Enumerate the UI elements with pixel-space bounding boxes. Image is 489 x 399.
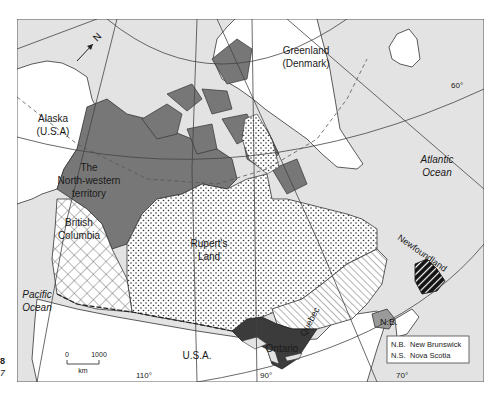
greenland-label-1: Greenland: [283, 45, 330, 56]
ruperts-land-label-1: Rupert's: [191, 238, 228, 249]
lon-110-label: 110°: [136, 371, 152, 380]
margin-fragment-2: 7: [0, 368, 5, 378]
bc-label-1: British: [65, 217, 93, 228]
ruperts-land-label-2: Land: [198, 251, 220, 262]
greenland-label-2: (Denmark): [282, 58, 329, 69]
pacific-label-2: Ocean: [22, 302, 52, 313]
lon-70-label: 70°: [396, 371, 408, 380]
pacific-label-1: Pacific: [22, 289, 51, 300]
legend-name-ns: Nova Scotia: [410, 351, 451, 360]
scale-end: 1000: [91, 351, 107, 358]
nwt-label-1: The: [80, 162, 98, 173]
legend-box: N.B. New Brunswick N.S. Nova Scotia: [387, 336, 469, 363]
alaska-label-1: Alaska: [38, 113, 68, 124]
legend-abbr-ns: N.S.: [391, 351, 406, 360]
margin-fragment-1: 8: [0, 356, 5, 366]
alaska-label-2: (U.S.A): [37, 126, 70, 137]
ontario-label: Ontario: [266, 343, 299, 354]
atlantic-label-2: Ocean: [422, 167, 452, 178]
legend-abbr-nb: N.B.: [391, 340, 406, 349]
legend-name-nb: New Brunswick: [410, 340, 462, 349]
scale-start: 0: [65, 351, 69, 358]
nwt-label-3: territory: [72, 188, 106, 199]
scale-unit: km: [78, 367, 88, 374]
usa-label: U.S.A.: [183, 350, 212, 361]
nwt-label-2: North-western: [58, 175, 121, 186]
lon-90-label: 90°: [260, 371, 272, 380]
nb-label: N.B.: [380, 317, 398, 327]
canada-historical-map: Alaska (U.S.A) The North-western territo…: [17, 19, 484, 382]
lat-60-label: 60°: [451, 81, 463, 90]
bc-label-2: Columbia: [58, 230, 101, 241]
atlantic-label-1: Atlantic: [420, 154, 454, 165]
